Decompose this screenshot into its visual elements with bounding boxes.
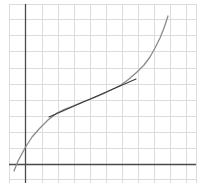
graph-svg	[0, 0, 200, 186]
graph-figure	[0, 0, 200, 186]
